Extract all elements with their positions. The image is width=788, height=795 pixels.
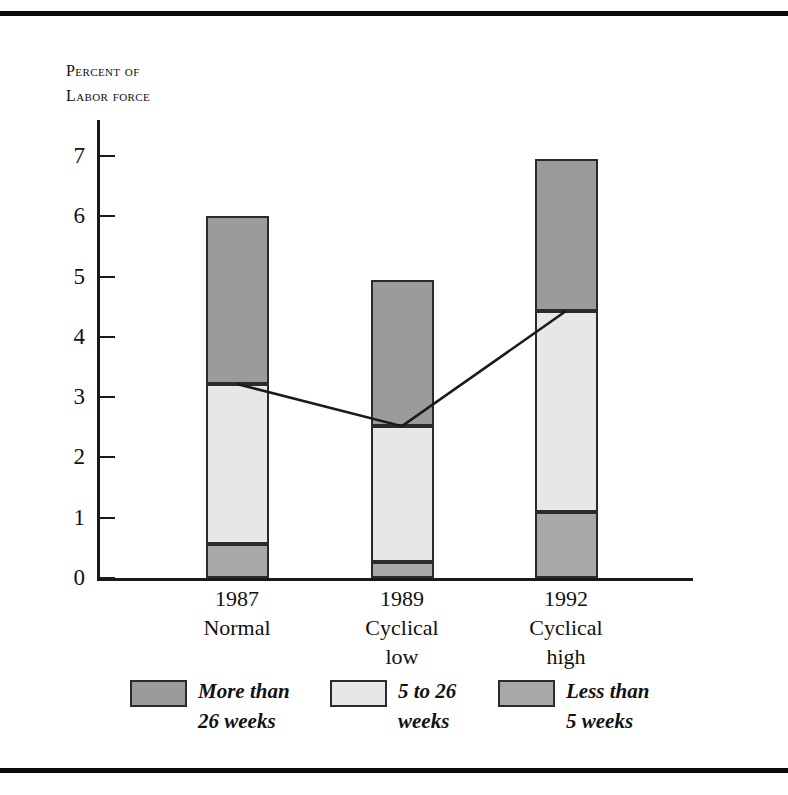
y-tick-label: 2: [49, 445, 85, 468]
figure: Percent of Labor force 01234567 1987Norm…: [0, 0, 788, 795]
x-axis-label-sublabel: high: [491, 642, 641, 671]
legend-label: More than26 weeks: [198, 676, 290, 736]
x-axis-label-year: 1987: [162, 584, 312, 613]
y-tick-label: 1: [49, 506, 85, 529]
y-tick-label: 3: [49, 385, 85, 408]
legend-swatch: [330, 680, 387, 707]
legend-swatch: [498, 680, 555, 707]
x-axis-label: 1987Normal: [162, 584, 312, 642]
x-axis-label-sublabel: Cyclical: [327, 613, 477, 642]
x-axis-label-sublabel: low: [327, 642, 477, 671]
bottom-rule: [0, 768, 788, 773]
legend-label-line-1: 5 to 26: [398, 679, 456, 703]
legend-label-line-2: weeks: [398, 706, 456, 736]
y-axis-title: Percent of Labor force: [66, 58, 306, 108]
y-tick-label: 5: [49, 265, 85, 288]
x-axis-label-year: 1989: [327, 584, 477, 613]
legend-label-line-2: 5 weeks: [566, 706, 649, 736]
y-tick-label: 6: [49, 204, 85, 227]
x-axis-label-sublabel: Normal: [162, 613, 312, 642]
x-axis-label: 1989Cyclicallow: [327, 584, 477, 671]
legend-label: Less than5 weeks: [566, 676, 649, 736]
x-axis-label-sublabel: Cyclical: [491, 613, 641, 642]
legend-label: 5 to 26weeks: [398, 676, 456, 736]
legend-label-line-2: 26 weeks: [198, 706, 290, 736]
y-tick-label: 4: [49, 325, 85, 348]
y-tick-label: 0: [49, 566, 85, 589]
y-tick-label: 7: [49, 144, 85, 167]
x-axis-label-year: 1992: [491, 584, 641, 613]
y-axis-title-line-1: Percent of: [66, 58, 306, 83]
legend: More than26 weeks5 to 26weeksLess than5 …: [130, 676, 690, 746]
overlay-polyline: [237, 311, 566, 426]
legend-label-line-1: More than: [198, 679, 290, 703]
top-rule: [0, 11, 788, 16]
x-axis-label: 1992Cyclicalhigh: [491, 584, 641, 671]
legend-label-line-1: Less than: [566, 679, 649, 703]
plot-area: 01234567: [97, 120, 693, 578]
overlay-line: [97, 120, 693, 581]
y-axis-title-line-2: Labor force: [66, 83, 306, 108]
legend-swatch: [130, 680, 187, 707]
